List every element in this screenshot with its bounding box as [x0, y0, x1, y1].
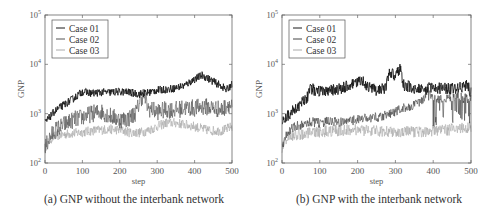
legend-label-2: Case 02 — [306, 35, 337, 45]
series-line-3 — [282, 122, 471, 153]
x-tick-label: 300 — [389, 166, 403, 176]
legend-label-3: Case 03 — [306, 46, 337, 56]
y-tick-label: 103 — [30, 108, 42, 119]
legend-label-1: Case 01 — [306, 24, 337, 34]
y-tick-label: 102 — [267, 157, 279, 168]
y-axis-label: GNP — [254, 80, 264, 98]
y-tick-label: 105 — [267, 9, 279, 20]
x-tick-label: 200 — [351, 166, 365, 176]
y-tick-label: 105 — [30, 9, 42, 20]
figure: 0100200300400500step102103104105GNPCase … — [0, 0, 493, 216]
caption-a: (a) GNP without the interbank network — [44, 193, 224, 205]
x-axis-label: step — [370, 176, 384, 186]
legend-label-1: Case 01 — [69, 24, 100, 34]
legend-label-3: Case 03 — [69, 46, 100, 56]
y-tick-label: 104 — [267, 58, 279, 69]
legend-label-2: Case 02 — [69, 35, 100, 45]
x-tick-label: 500 — [225, 166, 239, 176]
y-tick-label: 102 — [30, 157, 42, 168]
y-tick-label: 104 — [30, 58, 42, 69]
y-axis-label: GNP — [16, 80, 26, 98]
x-tick-label: 300 — [150, 166, 164, 176]
y-tick-label: 103 — [267, 108, 279, 119]
x-tick-label: 100 — [313, 166, 327, 176]
x-tick-label: 400 — [426, 166, 440, 176]
x-tick-label: 500 — [464, 166, 478, 176]
x-tick-label: 200 — [113, 166, 127, 176]
series-line-3 — [45, 118, 232, 152]
x-tick-label: 100 — [76, 166, 90, 176]
x-tick-label: 400 — [188, 166, 202, 176]
x-tick-label: 0 — [43, 166, 48, 176]
chart-panel-a: 0100200300400500step102103104105GNPCase … — [16, 9, 239, 186]
series-line-1 — [282, 64, 471, 124]
caption-b: (b) GNP with the interbank network — [296, 193, 462, 205]
series-line-1 — [45, 72, 232, 122]
x-axis-label: step — [132, 176, 146, 186]
chart-panel-b: 0100200300400500step102103104105GNPCase … — [254, 9, 478, 186]
x-tick-label: 0 — [280, 166, 285, 176]
